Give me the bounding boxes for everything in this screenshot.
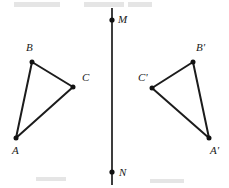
- mirror-line-group: M N: [109, 8, 128, 185]
- top-smudge-right: [128, 2, 152, 7]
- vertex-b-dot: [30, 60, 35, 65]
- triangle-abc-prime-outline: [152, 62, 209, 138]
- vertex-b-prime-dot: [191, 60, 196, 65]
- bottom-smudge-left: [36, 177, 66, 181]
- triangle-abc-vertex-c: C: [71, 71, 91, 90]
- point-m-dot: [109, 17, 114, 22]
- vertex-c-dot: [71, 85, 76, 90]
- vertex-a-label: A: [11, 144, 19, 156]
- top-smudge-left: [14, 2, 60, 7]
- triangle-abc-prime-vertex-b: B': [191, 41, 206, 65]
- triangle-abc-vertex-b: B: [26, 41, 35, 65]
- vertex-c-prime-dot: [150, 86, 155, 91]
- top-smudge-mid: [84, 2, 124, 7]
- point-n-label: N: [118, 166, 127, 178]
- vertex-a-prime-label: A': [209, 144, 220, 156]
- vertex-b-prime-label: B': [196, 41, 206, 53]
- reflection-figure: M N A B C: [0, 0, 229, 188]
- point-m-label: M: [117, 13, 128, 25]
- vertex-b-label: B: [26, 41, 33, 53]
- triangle-abc-prime-vertex-c: C': [138, 71, 155, 91]
- triangle-abc-prime-group: A' B' C': [138, 41, 220, 156]
- triangle-abc-outline: [16, 62, 73, 138]
- bottom-smudge-right: [150, 179, 184, 183]
- triangle-abc-vertex-a: A: [11, 136, 19, 156]
- triangle-abc-group: A B C: [11, 41, 90, 156]
- figure-canvas: M N A B C: [0, 0, 229, 188]
- vertex-c-prime-label: C': [138, 71, 148, 83]
- point-n-dot: [109, 169, 114, 174]
- vertex-a-prime-dot: [207, 136, 212, 141]
- vertex-c-label: C: [82, 71, 90, 83]
- triangle-abc-prime-vertex-a: A': [207, 136, 220, 156]
- vertex-a-dot: [14, 136, 19, 141]
